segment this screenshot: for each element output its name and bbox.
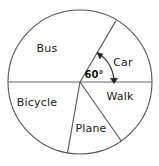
slice-label-plane: Plane xyxy=(75,122,106,135)
slice-label-walk: Walk xyxy=(106,90,133,103)
slice-label-bus: Bus xyxy=(37,42,58,55)
pie-chart-figure: Bus Car Walk Plane Bicycle 60° xyxy=(0,0,159,166)
pie-chart-svg xyxy=(0,0,159,166)
slice-label-bicycle: Bicycle xyxy=(17,96,57,109)
slice-label-car: Car xyxy=(113,56,133,69)
angle-annotation-label: 60° xyxy=(85,69,104,80)
